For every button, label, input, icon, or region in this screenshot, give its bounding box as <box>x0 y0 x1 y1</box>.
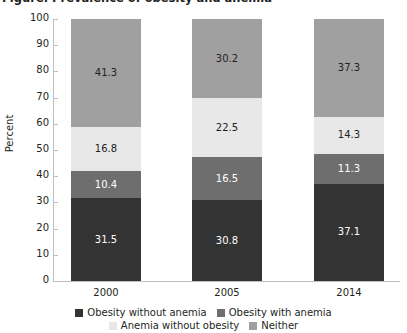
y-tick-mark <box>53 281 58 282</box>
y-tick-label-text: 50 <box>36 143 49 154</box>
bar-segment: 10.4 <box>71 171 141 198</box>
legend-label: Anemia without obesity <box>121 321 239 331</box>
y-tick-label-text: 10 <box>36 248 49 259</box>
legend-label: Obesity without anemia <box>87 308 206 318</box>
y-tick-mark <box>53 176 58 177</box>
x-tick-label: 2000 <box>51 287 161 298</box>
bar-segment: 16.8 <box>71 127 141 171</box>
y-tick-label-text: 60 <box>36 117 49 128</box>
stacked-bar-chart: Figure. Prevalence of obesity and anemia… <box>0 0 407 333</box>
legend: Obesity without anemiaObesity with anemi… <box>0 306 407 332</box>
x-tick-label: 2005 <box>172 287 282 298</box>
bar-segment: 11.3 <box>314 154 384 184</box>
y-tick-label-text: 40 <box>36 169 49 180</box>
bar-segment: 16.5 <box>192 157 262 200</box>
legend-label: Obesity with anemia <box>229 308 332 318</box>
y-tick-label-text: 30 <box>36 195 49 206</box>
legend-row-1: Obesity without anemiaObesity with anemi… <box>0 306 407 319</box>
x-axis-line <box>53 281 400 282</box>
y-tick-mark <box>53 45 58 46</box>
y-tick-mark <box>53 255 58 256</box>
y-tick-mark <box>53 124 58 125</box>
legend-swatch-icon <box>109 322 117 330</box>
bar-segment: 31.5 <box>71 198 141 281</box>
y-tick-mark <box>53 150 58 151</box>
bar-segment: 37.1 <box>314 184 384 281</box>
bar-segment: 41.3 <box>71 19 141 127</box>
y-tick-mark <box>53 19 58 20</box>
legend-item: Anemia without obesity <box>109 321 239 331</box>
y-tick-mark <box>53 202 58 203</box>
bar-2005: 30.816.522.530.2 <box>192 19 262 281</box>
chart-title-cutoff: Figure. Prevalence of obesity and anemia <box>0 0 407 7</box>
legend-item: Obesity without anemia <box>75 308 206 318</box>
bar-segment: 30.2 <box>192 19 262 98</box>
y-tick-mark <box>53 98 58 99</box>
legend-swatch-icon <box>249 322 257 330</box>
legend-item: Obesity with anemia <box>217 308 332 318</box>
bar-segment: 30.8 <box>192 200 262 281</box>
y-tick-label-text: 80 <box>36 64 49 75</box>
y-tick-label-text: 20 <box>36 222 49 233</box>
legend-swatch-icon <box>75 309 83 317</box>
x-tick-label: 2014 <box>294 287 404 298</box>
y-tick-label-text: 0 <box>43 274 49 285</box>
y-tick-label-text: 90 <box>36 38 49 49</box>
y-tick-mark <box>53 229 58 230</box>
bar-2000: 31.510.416.841.3 <box>71 19 141 281</box>
y-axis-title: Percent <box>4 104 15 164</box>
legend-row-2: Anemia without obesityNeither <box>0 319 407 332</box>
bar-2014: 37.111.314.337.3 <box>314 19 384 281</box>
legend-swatch-icon <box>217 309 225 317</box>
y-tick-label-text: 100 <box>30 12 49 23</box>
chart-title-text: Figure. Prevalence of obesity and anemia <box>2 0 272 5</box>
bar-segment: 22.5 <box>192 98 262 157</box>
legend-item: Neither <box>249 321 298 331</box>
y-tick-label-text: 70 <box>36 91 49 102</box>
bar-segment: 37.3 <box>314 19 384 117</box>
bar-segment: 14.3 <box>314 117 384 154</box>
legend-label: Neither <box>261 321 298 331</box>
y-tick-mark <box>53 71 58 72</box>
